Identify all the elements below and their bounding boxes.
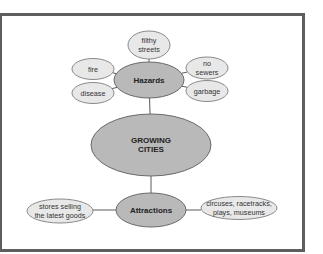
node-hazards: Hazards xyxy=(114,62,184,98)
node-stores-label: the latest goods xyxy=(35,211,86,220)
node-hazards-label: Hazards xyxy=(133,76,165,85)
concept-web: GROWINGCITIESHazardsfilthystreetsfirenos… xyxy=(0,0,323,254)
node-filthy-streets-label: streets xyxy=(138,45,160,54)
node-stores: stores sellingthe latest goods xyxy=(27,199,93,223)
node-attractions-label: Attractions xyxy=(130,206,173,215)
node-disease: disease xyxy=(72,83,114,104)
node-garbage: garbage xyxy=(186,81,228,102)
connector-hazards-disease xyxy=(112,87,117,88)
node-fire-label: fire xyxy=(88,65,98,74)
node-filthy-streets: filthystreets xyxy=(128,31,170,59)
node-entertainment-label: plays, museums xyxy=(213,208,265,217)
node-disease-label: disease xyxy=(81,89,106,98)
node-garbage-label: garbage xyxy=(194,87,220,96)
node-entertainment: circuses, racetracks,plays, museums xyxy=(201,197,277,220)
nodes: GROWINGCITIESHazardsfilthystreetsfirenos… xyxy=(27,31,277,227)
connector-hazards-no-sewers xyxy=(181,72,187,73)
node-growing-cities-label: CITIES xyxy=(138,145,164,154)
node-growing-cities: GROWINGCITIES xyxy=(91,114,211,176)
node-no-sewers: nosewers xyxy=(186,57,228,79)
node-no-sewers-label: sewers xyxy=(196,68,219,77)
connector-hazards-garbage xyxy=(182,86,188,87)
node-fire: fire xyxy=(72,59,114,80)
node-growing-cities-label: GROWING xyxy=(131,136,171,145)
node-attractions: Attractions xyxy=(116,193,186,227)
